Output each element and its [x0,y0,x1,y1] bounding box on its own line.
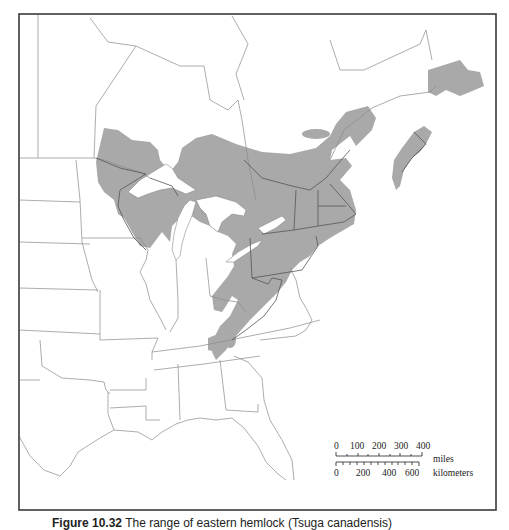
scale-mi-0: 0 [334,441,339,451]
figure-caption: Figure 10.32 The range of eastern hemloc… [52,516,392,530]
range-newfoundland [428,60,484,96]
dakota-border [19,200,100,334]
range-main [96,106,376,360]
political-borders [19,14,436,480]
scale-miles-label: miles [433,454,454,464]
scale-km-400: 400 [382,468,397,478]
missouri-border [100,290,158,360]
scale-km-600: 600 [405,468,420,478]
range-outlier-quebec [302,129,330,139]
scale-km-label: kilometers [433,468,473,478]
scale-mi-400: 400 [416,441,431,451]
minnesota-west [76,160,98,292]
illinois-border [170,260,178,332]
scale-mi-100: 100 [350,441,365,451]
scale-km-line [336,462,419,466]
scale-km-0: 0 [334,468,339,478]
iowa-border [82,238,166,330]
georgia-carolina [234,356,294,480]
labrador-border [330,30,432,70]
gulf-coast [19,418,286,480]
caption-text: The range of eastern hemlock (Tsuga cana… [125,516,392,530]
quebec-border [232,16,248,100]
louisiana-border [108,392,160,430]
caption-label: Figure 10.32 [52,516,122,530]
mississippi-alabama [178,360,258,420]
scale-miles-line [336,452,422,456]
scale-mi-300: 300 [394,441,409,451]
scale-km-200: 200 [356,468,371,478]
scale-bar: 0 100 200 300 400 miles 0 200 400 600 ki… [334,441,473,478]
tennessee-south [154,356,260,370]
species-range [96,60,484,360]
arkansas-south [40,340,146,394]
scale-mi-200: 200 [372,441,387,451]
